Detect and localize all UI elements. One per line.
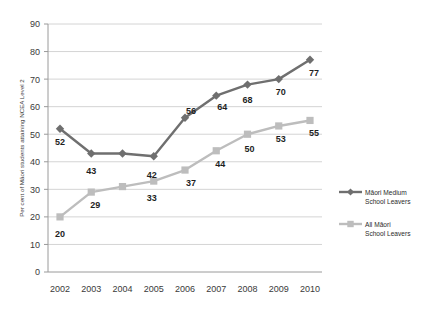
data-point-marker — [181, 166, 188, 173]
x-tick-label: 2005 — [144, 284, 164, 294]
chart-background — [0, 0, 442, 314]
y-tick-label: 30 — [30, 185, 40, 195]
data-label: 70 — [276, 87, 286, 97]
x-tick-label: 2003 — [81, 284, 101, 294]
y-tick-label: 50 — [30, 130, 40, 140]
x-tick-label: 2002 — [50, 284, 70, 294]
x-axis-tick-labels: 200220032004200520062007200820092010 — [50, 284, 320, 294]
data-label: 64 — [217, 102, 227, 112]
legend-label-line1: All Māori — [365, 221, 391, 228]
legend-label-line1: Māori Medium — [365, 189, 407, 196]
y-tick-label: 60 — [30, 102, 40, 112]
data-label: 77 — [309, 68, 319, 78]
data-point-marker — [119, 183, 126, 190]
data-point-marker — [56, 213, 63, 220]
data-label: 56 — [186, 106, 196, 116]
data-point-marker — [244, 131, 251, 138]
x-tick-label: 2004 — [112, 284, 132, 294]
data-label: 33 — [147, 193, 157, 203]
data-point-marker — [306, 117, 313, 124]
data-label: 20 — [55, 229, 65, 239]
y-tick-label: 40 — [30, 157, 40, 167]
x-tick-label: 2007 — [206, 284, 226, 294]
line-chart: 9080706050403020100 20022003200420052006… — [0, 0, 442, 314]
data-point-marker — [88, 188, 95, 195]
legend-label-line2: School Leavers — [365, 230, 411, 237]
data-label: 55 — [309, 128, 319, 138]
data-point-marker — [275, 122, 282, 129]
y-tick-label: 0 — [35, 267, 40, 277]
data-label: 43 — [86, 166, 96, 176]
data-point-marker — [347, 221, 353, 227]
legend-label-line2: School Leavers — [365, 198, 411, 205]
x-tick-label: 2006 — [175, 284, 195, 294]
x-tick-label: 2010 — [300, 284, 320, 294]
data-point-marker — [213, 147, 220, 154]
x-tick-label: 2009 — [269, 284, 289, 294]
y-tick-label: 10 — [30, 240, 40, 250]
data-label: 50 — [244, 144, 254, 154]
data-label: 44 — [215, 159, 225, 169]
y-tick-label: 90 — [30, 19, 40, 29]
data-label: 68 — [242, 95, 252, 105]
data-label: 52 — [55, 137, 65, 147]
data-label: 37 — [186, 178, 196, 188]
x-tick-label: 2008 — [237, 284, 257, 294]
y-tick-label: 20 — [30, 212, 40, 222]
y-tick-label: 70 — [30, 75, 40, 85]
data-label: 42 — [147, 170, 157, 180]
data-label: 29 — [90, 200, 100, 210]
data-label: 53 — [276, 134, 286, 144]
y-tick-label: 80 — [30, 47, 40, 57]
y-axis-title: Per cent of Māori students attaining NCE… — [18, 79, 25, 217]
chart-container: 9080706050403020100 20022003200420052006… — [0, 0, 442, 314]
